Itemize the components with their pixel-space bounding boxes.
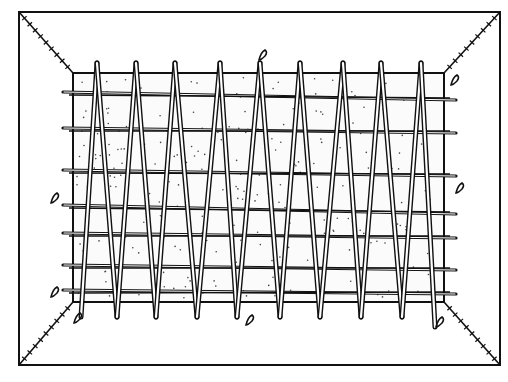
stipple-dot (339, 147, 341, 149)
stipple-dot (324, 233, 326, 235)
stipple-dot (322, 114, 324, 116)
stipple-dot (125, 79, 127, 81)
stipple-dot (243, 190, 245, 192)
stipple-dot (348, 218, 350, 220)
stipple-dot (397, 223, 399, 225)
stipple-dot (105, 281, 107, 283)
stipple-dot (236, 160, 238, 162)
stipple-dot (106, 81, 108, 83)
stipple-dot (193, 111, 195, 113)
stipple-dot (204, 154, 206, 156)
stipple-dot (100, 155, 102, 157)
stipple-dot (280, 142, 282, 144)
stipple-dot (160, 142, 162, 144)
stipple-dot (221, 139, 223, 141)
stipple-dot (109, 175, 111, 177)
stipple-dot (284, 207, 286, 209)
stipple-dot (120, 174, 122, 176)
stipple-dot (213, 280, 215, 282)
stipple-dot (95, 158, 97, 160)
stipple-dot (428, 274, 430, 276)
stipple-dot (201, 168, 203, 170)
stipple-dot (352, 122, 354, 124)
stipple-dot (271, 260, 273, 262)
stipple-dot (242, 199, 244, 201)
stipple-dot (83, 117, 85, 119)
stipple-dot (278, 82, 280, 84)
stipple-dot (85, 110, 87, 112)
stipple-dot (187, 277, 189, 279)
stipple-dot (313, 163, 315, 165)
stipple-dot (174, 246, 176, 248)
illustration-canvas (0, 0, 508, 382)
stipple-dot (350, 281, 352, 283)
stipple-dot (76, 176, 78, 178)
stipple-dot (399, 152, 401, 154)
stipple-dot (81, 81, 83, 83)
stipple-dot (121, 162, 123, 164)
stipple-dot (323, 219, 325, 221)
stipple-dot (202, 216, 204, 218)
stipple-dot (189, 280, 191, 282)
stipple-dot (194, 155, 196, 157)
stipple-dot (363, 106, 365, 108)
stipple-dot (114, 176, 116, 178)
stipple-dot (384, 242, 386, 244)
stipple-dot (243, 77, 245, 79)
stipple-dot (79, 156, 81, 158)
horizontal-rod-second (69, 292, 450, 293)
stipple-dot (351, 91, 353, 93)
wire-clip-icon (451, 75, 459, 85)
wire-clip-icon (51, 287, 59, 297)
stipple-dot (215, 251, 217, 253)
stipple-dot (98, 240, 100, 242)
stipple-dot (314, 78, 316, 80)
stipple-dot (244, 111, 246, 113)
stipple-dot (138, 294, 140, 296)
stipple-dot (191, 146, 193, 148)
stipple-dot (174, 156, 176, 158)
stipple-dot (79, 243, 81, 245)
stipple-dot (180, 249, 182, 251)
stipple-dot (320, 111, 322, 113)
stipple-dot (108, 123, 110, 125)
stipple-dot (279, 256, 281, 258)
stipple-dot (123, 148, 125, 150)
stipple-dot (427, 253, 429, 255)
stipple-dot (321, 142, 323, 144)
stipple-dot (295, 165, 297, 167)
stipple-dot (272, 88, 274, 90)
stipple-dot (332, 230, 334, 232)
stipple-dot (215, 285, 217, 287)
stipple-dot (115, 186, 117, 188)
stipple-dot (109, 154, 111, 156)
stipple-dot (178, 184, 180, 186)
stipple-dot (271, 138, 273, 140)
stipple-dot (342, 185, 344, 187)
stipple-dot (104, 271, 106, 273)
stipple-dot (307, 260, 309, 262)
stipple-dot (254, 200, 256, 202)
wire-clip-icon (436, 317, 444, 327)
stipple-dot (332, 79, 334, 81)
stipple-dot (363, 233, 365, 235)
stipple-dot (117, 149, 119, 151)
stipple-dot (260, 244, 262, 246)
stipple-dot (132, 247, 134, 249)
stipple-dot (110, 186, 112, 188)
stipple-dot (292, 108, 294, 110)
stipple-dot (401, 202, 403, 204)
stipple-dot (191, 81, 193, 83)
stipple-dot (176, 154, 178, 156)
stipple-dot (159, 115, 161, 117)
stipple-dot (163, 272, 165, 274)
stipple-dot (95, 154, 97, 156)
stipple-dot (280, 184, 282, 186)
wire-clip-icon (456, 183, 464, 193)
stipple-dot (382, 296, 384, 298)
stipple-dot (228, 126, 230, 128)
stipple-dot (320, 138, 322, 140)
stipple-dot (94, 167, 96, 169)
wire-clip-icon (259, 50, 267, 60)
stipple-dot (246, 295, 248, 297)
